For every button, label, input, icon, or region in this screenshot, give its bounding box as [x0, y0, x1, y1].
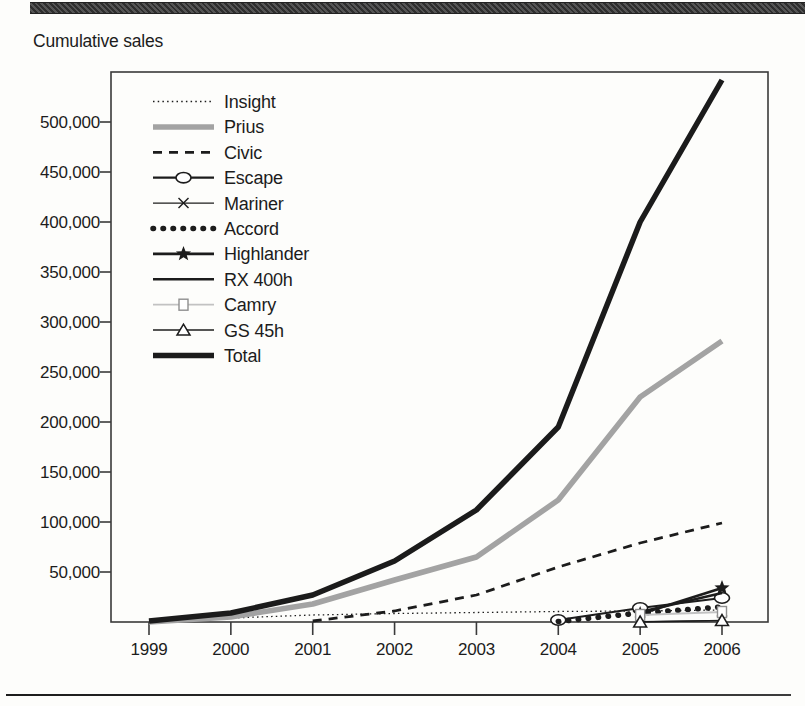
y-tick-label: 300,000: [40, 313, 100, 332]
legend-label: Camry: [224, 295, 276, 315]
legend-label: GS 45h: [224, 321, 284, 341]
y-tick-label: 50,000: [49, 563, 100, 582]
y-tick-label: 450,000: [40, 163, 100, 182]
legend-label: Mariner: [224, 194, 284, 214]
legend-label: Total: [224, 346, 261, 366]
legend-label: Escape: [224, 168, 283, 188]
y-tick-label: 150,000: [40, 463, 100, 482]
legend-label: Civic: [224, 143, 262, 163]
x-tick-label: 2006: [703, 640, 740, 659]
cumulative-sales-line-chart: 50,000100,000150,000200,000250,000300,00…: [0, 0, 805, 706]
plot-frame: [111, 72, 768, 622]
chart-title: Cumulative sales: [33, 31, 163, 52]
square-marker: [179, 299, 188, 310]
y-tick-label: 250,000: [40, 363, 100, 382]
x-tick-label: 2001: [294, 640, 331, 659]
x-tick-label: 2000: [212, 640, 249, 659]
y-tick-label: 100,000: [40, 513, 100, 532]
x-tick-label: 2004: [540, 640, 577, 659]
page-bottom-rule: [6, 694, 791, 696]
legend-label: Prius: [224, 117, 264, 137]
scanned-book-page: Cumulative sales 50,000100,000150,000200…: [0, 0, 805, 706]
series-line-camry: [640, 612, 722, 615]
legend-label: Highlander: [224, 244, 309, 264]
legend-label: Insight: [224, 92, 276, 112]
legend-label: RX 400h: [224, 270, 293, 290]
y-tick-label: 400,000: [40, 213, 100, 232]
x-tick-label: 2005: [622, 640, 659, 659]
y-tick-label: 350,000: [40, 263, 100, 282]
y-tick-label: 500,000: [40, 113, 100, 132]
x-tick-label: 2002: [376, 640, 413, 659]
legend-label: Accord: [224, 219, 279, 239]
y-tick-label: 200,000: [40, 413, 100, 432]
x-tick-label: 1999: [130, 640, 167, 659]
series-line-prius: [149, 341, 722, 622]
escape-circle-marker: [176, 173, 191, 183]
page-top-rule: [30, 2, 805, 14]
star-marker: [176, 246, 191, 260]
x-tick-label: 2003: [458, 640, 495, 659]
